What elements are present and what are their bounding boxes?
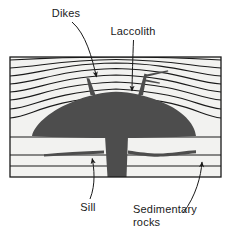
label-laccolith: Laccolith bbox=[110, 25, 155, 37]
feeder-conduit bbox=[105, 136, 128, 177]
figure-root: Dikes Laccolith Sill Sedimentary rocks bbox=[0, 0, 233, 237]
label-sill: Sill bbox=[80, 201, 95, 213]
label-dikes: Dikes bbox=[52, 7, 81, 19]
cross-section-block bbox=[10, 57, 221, 177]
label-sedimentary-rocks-line1: Sedimentary bbox=[133, 203, 197, 215]
label-sedimentary-rocks-line2: rocks bbox=[133, 216, 161, 228]
laccolith-cross-section-diagram: Dikes Laccolith Sill Sedimentary rocks bbox=[0, 0, 233, 237]
